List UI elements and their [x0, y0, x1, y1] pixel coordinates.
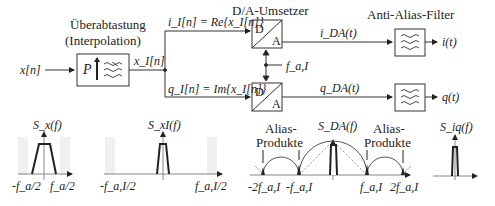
tick-neg-2fai: -2f_a,I — [248, 181, 280, 193]
spectrum-sda-title: S_DA(f) — [318, 120, 357, 132]
signal-input: x[n] — [20, 64, 41, 76]
spectrum-sx — [18, 132, 72, 180]
dac-i-a: A — [272, 35, 281, 47]
aaf-q-block — [395, 84, 425, 111]
signal-i-da: i_DA(t) — [320, 27, 357, 39]
alias-annotation-left-1: Alias- — [265, 122, 297, 135]
alias-annotation-right-1: Alias- — [373, 122, 405, 135]
tick-pos-fai2: f_a,I/2 — [195, 180, 227, 192]
spectrum-siq-title: S_iq(f) — [440, 121, 473, 133]
spectrum-sxi — [104, 132, 222, 180]
upsample-factor: P — [83, 63, 92, 77]
tick-pos-fa2: f_a/2 — [50, 180, 75, 192]
signal-clock: f_a,I — [286, 60, 308, 72]
oversampling-title-line2: (Interpolation) — [65, 34, 141, 47]
aaf-title: Anti-Alias-Filter — [367, 8, 454, 21]
tick-pos-2fai: 2f_a,I — [390, 181, 418, 193]
spectrum-siq — [433, 135, 477, 180]
spectrum-sxi-title: S_xI(f) — [148, 119, 181, 131]
tick-neg-fai: -f_a,I — [286, 181, 312, 193]
signal-q-out: q(t) — [442, 91, 459, 103]
alias-annotation-right-2: Produkte — [364, 136, 411, 149]
signal-i-branch: i_I[n] = Re{x_I[n]} — [168, 16, 264, 28]
alias-annotation-left-2: Produkte — [256, 136, 303, 149]
signal-q-da: q_DA(t) — [320, 82, 359, 94]
tick-neg-fai2: -f_a,I/2 — [100, 180, 136, 192]
signal-q-branch: q_I[n] = Im{x_I[n]} — [168, 83, 266, 95]
tick-neg-fa2: -f_a/2 — [12, 180, 41, 192]
spectrum-sx-title: S_x(f) — [33, 119, 62, 131]
tick-pos-fai: f_a,I — [360, 181, 382, 193]
oversampling-title-line1: Überabtastung — [70, 18, 146, 31]
signal-i-out: i(t) — [442, 36, 457, 48]
aaf-i-block — [395, 29, 425, 56]
signal-interpolated: x_I[n] — [134, 55, 165, 67]
dac-q-a: A — [272, 98, 281, 110]
